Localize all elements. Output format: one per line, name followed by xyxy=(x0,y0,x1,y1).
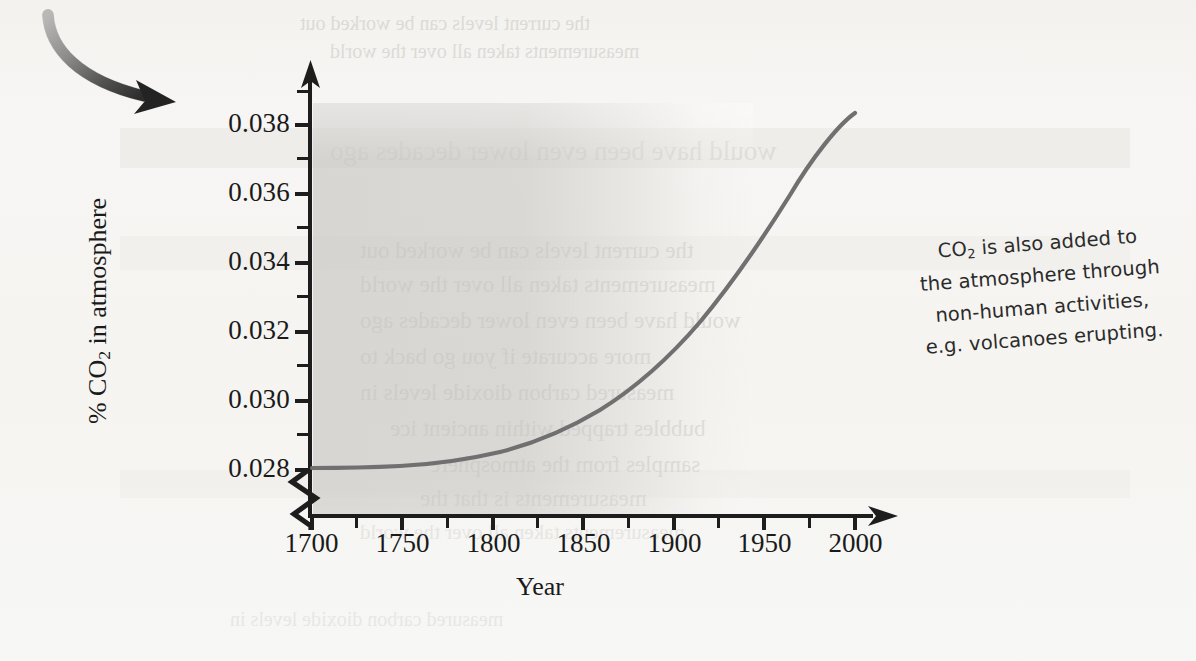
x-axis-title: Year xyxy=(516,572,564,602)
y-axis-title: % CO2 in atmosphere xyxy=(83,146,115,476)
annotation-co-text: CO xyxy=(937,237,968,262)
annotation-note: CO2 is also added to the atmosphere thro… xyxy=(901,218,1182,365)
